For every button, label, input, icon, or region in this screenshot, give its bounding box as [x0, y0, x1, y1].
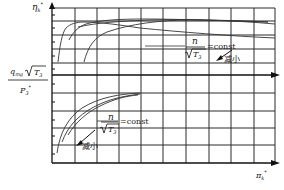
upper-const-label: =const [207, 42, 236, 51]
lower-frac-num: n [108, 112, 114, 122]
y-axis-lower-label: qmg T3 P3* [8, 66, 48, 96]
x-axis-label: πk* [255, 169, 267, 181]
y-axis-upper-label: ηk* [32, 1, 43, 13]
compressor-characteristic-chart: n T3 =const 减小 n T3 =const 减小 ηk* qmg T3… [0, 0, 284, 190]
upper-frac-den: T3 [193, 50, 202, 60]
svg-text:T3: T3 [34, 68, 43, 78]
y-axis-arrow-icon [49, 2, 55, 9]
lower-x-axis [52, 160, 280, 166]
upper-x-axis [52, 72, 280, 78]
lower-const-label: =const [120, 117, 149, 126]
svg-text:P3*: P3* [19, 84, 32, 96]
y-axis [49, 2, 55, 163]
svg-text:qmg: qmg [10, 67, 23, 78]
upper-annotation: n T3 =const 减小 [145, 36, 240, 64]
lower-frac-den: T3 [108, 125, 117, 135]
upper-decrease-arrow-icon [216, 55, 223, 61]
upper-curve-3 [84, 20, 268, 62]
upper-efficiency-curves [58, 19, 275, 62]
upper-decrease-label: 减小 [224, 54, 240, 64]
upper-curve-1 [58, 22, 275, 62]
lower-decrease-label: 减小 [82, 141, 98, 151]
upper-frac-num: n [192, 36, 198, 46]
